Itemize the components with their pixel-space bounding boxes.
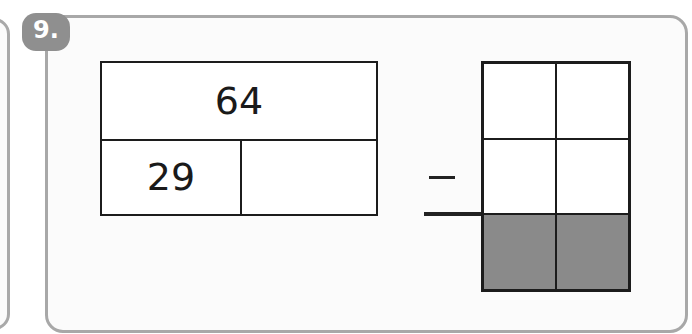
minuend-tens-cell[interactable]: [483, 63, 556, 139]
subtrahend-tens-cell[interactable]: [483, 139, 556, 215]
question-number-badge: 9.: [22, 13, 70, 51]
minus-sign: [429, 176, 455, 179]
answer-ones-cell[interactable]: [556, 214, 629, 290]
minuend-ones-cell[interactable]: [556, 63, 629, 139]
subtrahend-ones-cell[interactable]: [556, 139, 629, 215]
previous-question-panel: [0, 18, 10, 330]
answer-tens-cell[interactable]: [483, 214, 556, 290]
bar-model-part-missing[interactable]: [242, 139, 376, 214]
column-subtraction-grid: [481, 61, 631, 292]
bar-model: 64 29: [100, 61, 378, 216]
bar-model-part-known: 29: [102, 139, 242, 214]
bar-model-whole: 64: [102, 63, 376, 141]
